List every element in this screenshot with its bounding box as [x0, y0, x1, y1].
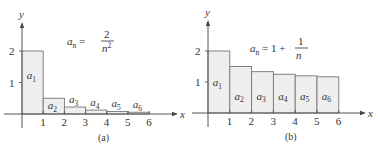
x-axis-label: x: [179, 108, 185, 120]
bar-label-a4: a4: [90, 96, 100, 111]
bar-a4: [86, 110, 107, 114]
formula: an = 1 +: [250, 42, 285, 57]
bar-a2: [230, 67, 252, 114]
y-axis-label: y: [204, 6, 210, 18]
formula-denominator: n2: [102, 41, 112, 54]
x-tick-label: 6: [336, 115, 342, 127]
formula-numerator: 2: [104, 28, 110, 40]
panel-caption: (b): [285, 131, 297, 143]
x-tick-label: 6: [146, 116, 152, 128]
x-tick-label: 2: [61, 116, 67, 128]
figure: xy12345612a1a2a3a4a5a6an = 2n2(a)xy12345…: [0, 0, 378, 155]
x-axis-label: x: [367, 107, 373, 119]
bar-a4: [273, 74, 295, 113]
chart-panel-a: xy12345612a1a2a3a4a5a6an = 2n2(a): [4, 8, 185, 144]
y-tick-label: 2: [9, 45, 15, 57]
x-tick-label: 4: [292, 115, 298, 127]
y-axis-arrow-icon: [20, 22, 24, 28]
y-tick-label: 1: [195, 76, 201, 88]
bar-a3: [252, 72, 274, 113]
formula-denominator: n: [296, 49, 302, 61]
y-axis-arrow-icon: [206, 20, 210, 26]
bar-label-a5: a5: [111, 97, 121, 112]
x-tick-label: 3: [270, 115, 276, 127]
x-axis-arrow-icon: [172, 112, 178, 116]
x-axis-arrow-icon: [360, 111, 366, 115]
y-tick-label: 2: [195, 45, 201, 57]
x-tick-label: 4: [104, 116, 110, 128]
formula-numerator: 1: [298, 35, 304, 47]
x-tick-label: 3: [83, 116, 89, 128]
bar-a3: [64, 107, 85, 114]
formula: an =: [67, 35, 85, 50]
panel-caption: (a): [98, 132, 109, 144]
x-tick-label: 1: [227, 115, 233, 127]
bar-a5: [295, 76, 317, 113]
x-tick-label: 1: [40, 116, 46, 128]
y-axis-label: y: [18, 8, 24, 20]
x-tick-label: 5: [125, 116, 131, 128]
x-tick-label: 2: [249, 115, 255, 127]
chart-panel-b: xy12345612a1a2a3a4a5a6an = 1 + 1n(b): [192, 6, 373, 143]
y-tick-label: 1: [9, 77, 15, 89]
x-tick-label: 5: [314, 115, 320, 127]
bar-label-a6: a6: [133, 98, 143, 113]
bar-label-a3: a3: [69, 93, 79, 108]
